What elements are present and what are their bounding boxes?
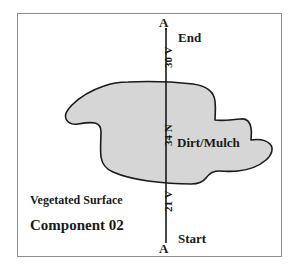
figure-caption: Component 02 [30, 218, 124, 233]
section-end-label: End [178, 31, 201, 44]
section-endpoint-label-top: A [159, 16, 168, 29]
section-endpoint-label-bottom: A [159, 242, 168, 255]
station-label-34n: 34 N [163, 124, 174, 146]
figure-container: A End 30 V 34 N 21 V Dirt/Mulch Vegetate… [0, 0, 299, 271]
section-start-label: Start [178, 232, 206, 245]
region-label-vegetated-surface: Vegetated Surface [30, 194, 123, 206]
station-label-30v: 30 V [163, 47, 174, 69]
station-label-21v: 21 V [163, 191, 174, 213]
region-label-dirt-mulch: Dirt/Mulch [177, 136, 240, 149]
